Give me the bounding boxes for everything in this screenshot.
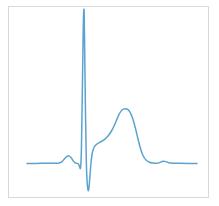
ecg-figure [0, 0, 219, 206]
ecg-waveform-canvas [0, 0, 219, 206]
ecg-trace-line [27, 9, 197, 191]
